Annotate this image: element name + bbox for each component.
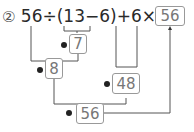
step-3-badge [104,81,110,87]
step-4-box[interactable]: 56 [76,103,104,124]
step-2-badge [37,67,43,73]
step-4-value: 56 [80,105,99,123]
step-1-box[interactable]: 7 [69,34,87,54]
step-3-value: 48 [116,75,135,93]
step-1-value: 7 [73,35,83,53]
step-3-box[interactable]: 48 [112,73,140,94]
step-1-badge [61,42,67,48]
step-2-value: 8 [49,60,59,78]
step-2-box[interactable]: 8 [45,58,63,79]
step-4-badge [66,110,72,116]
